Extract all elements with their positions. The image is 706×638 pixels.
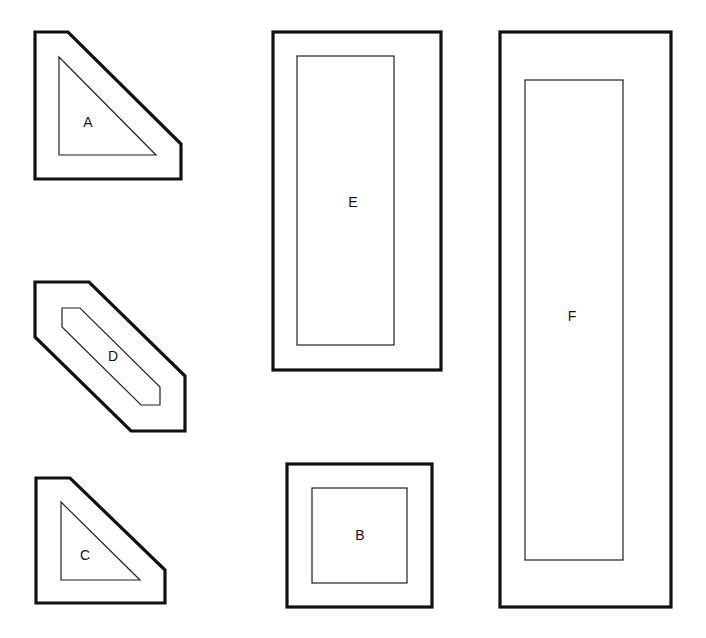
shape-d: D (35, 282, 185, 431)
shape-f-label: F (568, 308, 577, 324)
shape-b-label: B (355, 527, 364, 543)
shape-c-label: C (80, 547, 90, 563)
shape-a-label: A (83, 114, 93, 130)
shape-f-outer (500, 32, 671, 607)
shapes-diagram: A D C E B F (0, 0, 706, 638)
shape-e-label: E (348, 194, 357, 210)
shape-c: C (36, 478, 165, 603)
shape-a: A (35, 32, 181, 179)
shape-a-outer (35, 32, 181, 179)
shape-d-label: D (108, 348, 118, 364)
shape-b: B (287, 464, 432, 607)
shape-f: F (500, 32, 671, 607)
shape-e: E (273, 32, 441, 370)
shape-e-inner (297, 56, 394, 345)
shape-c-inner (61, 502, 140, 580)
